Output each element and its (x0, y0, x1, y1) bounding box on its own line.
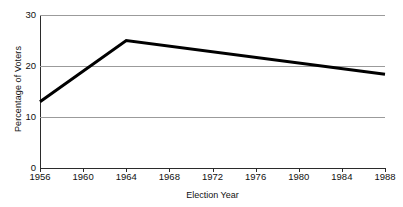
y-tick-label: 10 (18, 112, 36, 122)
x-axis-title: Election Year (40, 190, 385, 200)
y-tick-label: 20 (18, 61, 36, 71)
y-tick-label: 30 (18, 10, 36, 20)
plot-area (40, 15, 385, 168)
x-tick-label: 1960 (63, 172, 103, 182)
chart-title (150, 0, 400, 4)
x-tick-label: 1976 (236, 172, 276, 182)
x-tick-label: 1988 (365, 172, 403, 182)
x-tick-label: 1984 (322, 172, 362, 182)
x-tick-label: 1980 (279, 172, 319, 182)
x-axis-tick-labels: 195619601964196819721976198019841988 (40, 172, 385, 186)
x-tick-label: 1972 (193, 172, 233, 182)
chart-figure: Percentage of Voters 0102030 19561960196… (0, 0, 403, 207)
series-line-voter-percentage (40, 15, 385, 168)
x-tick-label: 1956 (20, 172, 60, 182)
x-tick-label: 1968 (149, 172, 189, 182)
x-tick-label: 1964 (106, 172, 146, 182)
